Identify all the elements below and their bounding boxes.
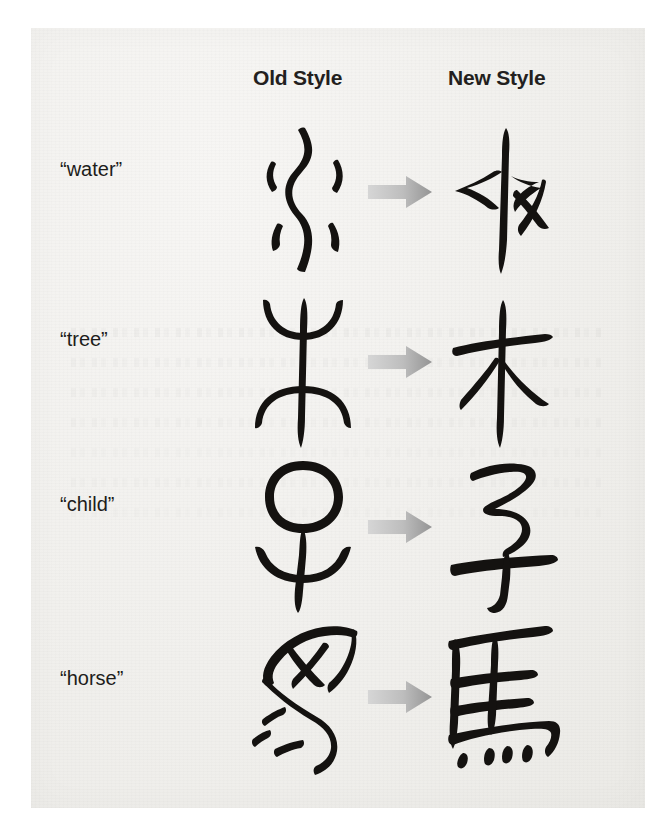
- row-label-child: “child”: [60, 493, 230, 516]
- comparison-row-water: “water”: [0, 120, 666, 280]
- row-label-horse: “horse”: [60, 667, 230, 690]
- oracle-bone-water-glyph: [245, 120, 365, 280]
- row-label-water: “water”: [60, 158, 230, 181]
- oracle-bone-child-glyph: [245, 455, 365, 615]
- transformation-arrow: [366, 507, 436, 547]
- seal-script-horse-glyph: [445, 615, 565, 775]
- oracle-bone-horse-glyph: [245, 615, 365, 775]
- oracle-bone-tree-glyph: [245, 290, 365, 450]
- row-label-tree: “tree”: [60, 328, 230, 351]
- seal-script-tree-glyph: [445, 290, 565, 450]
- seal-script-water-glyph: [445, 120, 565, 280]
- comparison-row-child: “child”: [0, 455, 666, 615]
- comparison-row-tree: “tree”: [0, 290, 666, 450]
- transformation-arrow: [366, 342, 436, 382]
- transformation-arrow: [366, 677, 436, 717]
- comparison-row-horse: “horse”: [0, 615, 666, 775]
- seal-script-child-glyph: [445, 455, 565, 615]
- transformation-arrow: [366, 172, 436, 212]
